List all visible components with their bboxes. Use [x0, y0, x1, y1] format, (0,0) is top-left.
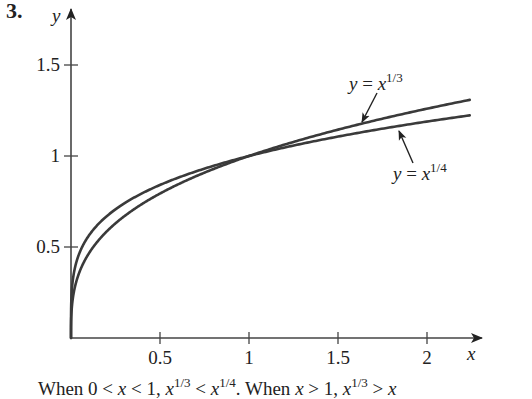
- y-tick-label: 1: [51, 145, 61, 166]
- curve-label-2: y = x1/4: [391, 160, 447, 184]
- curve-label-1: y = x1/3: [347, 70, 403, 94]
- x-tick-label: 1.5: [326, 347, 350, 368]
- x-axis-label: x: [466, 343, 476, 364]
- annotation-arrow-2: [399, 131, 413, 163]
- x-tick-label: 1: [244, 347, 254, 368]
- x-tick-label: 0.5: [148, 347, 172, 368]
- curve-series-1: [71, 100, 470, 338]
- x-tick-label: 2: [422, 347, 432, 368]
- curves: [71, 100, 470, 338]
- annotation-arrow-1: [362, 93, 377, 122]
- caption-text: When 0 < x < 1, x1/3 < x1/4. When x > 1,…: [38, 378, 397, 399]
- chart-canvas: xy 0.511.520.511.5 y = x1/3y = x1/4: [0, 0, 532, 399]
- y-tick-label: 0.5: [36, 236, 60, 257]
- y-axis-label: y: [50, 5, 61, 26]
- y-tick-label: 1.5: [36, 54, 60, 75]
- axes: xy: [50, 5, 482, 364]
